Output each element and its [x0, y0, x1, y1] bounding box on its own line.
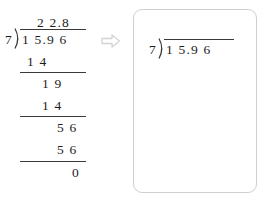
quotient-value: 2 2.8 [37, 16, 70, 30]
step-rule-2 [20, 116, 86, 117]
practice-division-bracket-icon [158, 38, 166, 59]
worked-division-example: 2 2.8 7 1 5.9 6 1 4 1 9 1 4 5 6 5 6 0 [0, 0, 100, 203]
dividend-value: 1 5.9 6 [22, 33, 68, 47]
step-rule-1 [20, 72, 86, 73]
division-vinculum [20, 29, 86, 30]
step-subtract-14-second: 1 4 [42, 99, 62, 113]
final-remainder-value: 0 [72, 166, 80, 180]
step-remainder-19: 1 9 [42, 77, 62, 91]
practice-answer-box[interactable]: 7 1 5.9 6 [133, 9, 257, 193]
divisor-value: 7 [5, 33, 13, 47]
step-remainder-56: 5 6 [57, 121, 77, 135]
practice-division-vinculum [164, 39, 234, 40]
step-subtract-14: 1 4 [27, 55, 47, 69]
step-subtract-56: 5 6 [57, 143, 77, 157]
practice-divisor-value: 7 [149, 43, 156, 57]
right-arrow-outline-icon [101, 33, 121, 49]
step-rule-3 [20, 161, 86, 162]
practice-division-problem: 7 1 5.9 6 [149, 38, 244, 68]
practice-dividend-value: 1 5.9 6 [166, 43, 212, 57]
division-bracket-icon [14, 28, 22, 49]
